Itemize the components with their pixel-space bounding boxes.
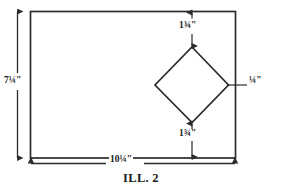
bottom-clearance-label: 1¾" — [178, 129, 197, 139]
top-clearance-label: 1¾" — [178, 21, 197, 31]
inner-diamond-shape — [155, 47, 229, 123]
overall-width-label: 10¼" — [109, 155, 133, 165]
overall-height-label: 7¼" — [3, 76, 22, 86]
figure-caption: ILL. 2 — [0, 171, 282, 186]
figure-drawing — [0, 0, 282, 195]
illustration-figure: 1¾" 1¾" 7¼" 10¼" ¼" ILL. 2 — [0, 0, 282, 195]
right-clearance-label: ¼" — [248, 76, 262, 86]
outer-rectangle-shape — [31, 12, 236, 159]
